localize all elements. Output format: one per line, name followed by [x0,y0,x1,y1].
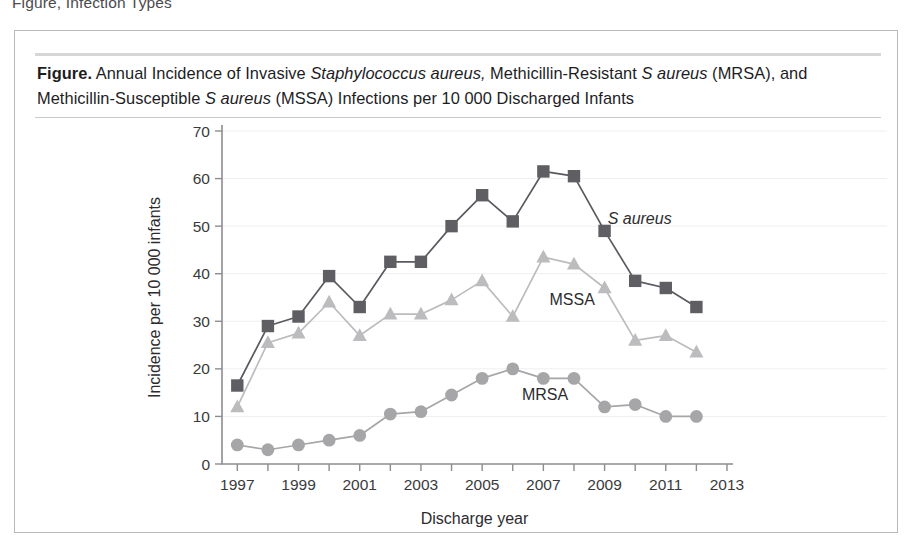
x-tick-label: 1999 [281,476,315,493]
data-point-marker [262,443,275,456]
chart-plot-area: 010203040506070 199719992001200320052007… [15,119,897,533]
x-tick-label: 2001 [342,476,376,493]
y-tick-label: 70 [193,123,211,140]
caption-text-2: Methicillin-Resistant [486,64,642,82]
caption-italic-3: S aureus [205,89,271,107]
x-tick-label: 2003 [404,476,438,493]
data-point-marker [445,292,459,305]
data-point-marker [445,389,458,402]
running-head: Figure, Infection Types [12,0,172,12]
data-point-marker [384,256,396,268]
x-axis-title: Discharge year [421,510,529,527]
caption-italic-1: Staphylococcus aureus, [310,64,485,82]
y-tick-label: 60 [193,170,211,187]
series-label-s-aureus: S aureus [608,210,672,227]
x-tick-label: 2005 [465,476,499,493]
data-point-marker [660,282,672,294]
data-point-marker [384,408,397,421]
x-axis-ticks: 199719992001200320052007200920112013 [220,464,744,493]
data-point-marker [230,400,244,413]
y-tick-label: 50 [193,218,211,235]
data-point-marker [475,273,489,286]
x-tick-label: 1997 [220,476,254,493]
data-point-marker [383,307,397,320]
data-point-marker [506,362,519,375]
x-tick-label: 2007 [526,476,560,493]
series-label-mrsa: MRSA [522,386,569,403]
y-tick-label: 40 [193,265,211,282]
data-point-marker [598,281,612,294]
x-tick-label: 2013 [710,476,744,493]
y-tick-label: 10 [193,408,211,425]
figure-frame: Figure. Annual Incidence of Invasive Sta… [14,30,898,533]
data-point-marker [415,405,428,418]
data-point-marker [659,410,672,423]
data-point-marker [537,165,549,177]
data-point-marker [689,345,703,358]
caption-bold-prefix: Figure. [37,64,92,82]
data-point-marker [231,379,243,391]
caption-rule-bottom [35,117,881,118]
data-point-marker [262,320,274,332]
caption-text-1: Annual Incidence of Invasive [92,64,310,82]
data-point-marker [292,439,305,452]
data-point-marker [292,310,304,322]
data-point-marker [568,372,581,385]
y-tick-label: 30 [193,313,211,330]
data-point-marker [629,398,642,411]
data-point-marker [476,189,488,201]
data-point-marker [476,372,489,385]
caption-text-3: (MRSA), [708,64,776,82]
data-point-marker [659,328,673,341]
caption-italic-2: S aureus [642,64,708,82]
data-point-marker [537,372,550,385]
data-point-marker [536,250,550,263]
data-point-marker [415,256,427,268]
x-tick-label: 2009 [587,476,621,493]
x-tick-label: 2011 [649,476,682,493]
data-point-marker [414,307,428,320]
data-point-marker [445,220,457,232]
y-tick-label: 20 [193,360,211,377]
series-s-aureus [231,165,702,391]
figure-caption: Figure. Annual Incidence of Invasive Sta… [37,61,883,111]
data-point-marker [323,434,336,447]
y-axis-ticks: 010203040506070 [193,123,222,473]
data-point-marker [323,270,335,282]
caption-text-5: (MSSA) Infections per 10 000 Discharged … [271,89,634,107]
incidence-line-chart: 010203040506070 199719992001200320052007… [15,119,897,533]
data-point-marker [568,170,580,182]
data-point-marker [690,301,702,313]
series-mrsa [231,362,703,456]
y-axis-title: Incidence per 10 000 infants [146,197,163,398]
y-tick-label: 0 [201,456,210,473]
caption-rule-top [35,53,881,56]
data-point-marker [231,439,244,452]
series-label-mssa: MSSA [549,291,595,308]
data-point-marker [507,215,519,227]
data-point-marker [322,295,336,308]
data-point-marker [353,429,366,442]
data-point-marker [598,401,611,414]
data-point-marker [354,301,366,313]
data-point-marker [629,275,641,287]
data-point-marker [690,410,703,423]
